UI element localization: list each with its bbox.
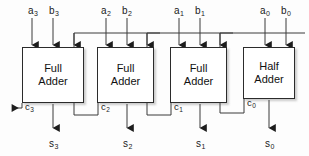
carry-label-c2: c2 xyxy=(101,101,110,112)
input-label-a3: a3 xyxy=(28,5,38,16)
input-label-b1: b1 xyxy=(195,5,205,16)
adder-label-line2: Adder xyxy=(184,75,213,88)
sum-label-s3: s3 xyxy=(49,138,58,149)
input-label-b0: b0 xyxy=(281,5,291,16)
input-label-b3: b3 xyxy=(49,5,59,16)
carry-label-c1: c1 xyxy=(174,101,183,112)
sum-label-s1: s1 xyxy=(196,138,205,149)
input-label-a1: a1 xyxy=(174,5,184,16)
carry-label-c0: c0 xyxy=(247,97,256,108)
adder-label-line1: Full xyxy=(117,62,135,75)
adder-block-fa1: Full Adder xyxy=(170,47,227,103)
adder-label-line1: Full xyxy=(44,62,62,75)
adder-label-line2: Adder xyxy=(38,75,67,88)
input-label-a0: a0 xyxy=(260,5,270,16)
input-label-b2: b2 xyxy=(122,5,132,16)
ripple-carry-adder-diagram: Full Adder Full Adder Full Adder Half Ad… xyxy=(0,0,309,156)
adder-block-fa2: Full Adder xyxy=(97,47,154,103)
sum-label-s0: s0 xyxy=(265,138,274,149)
sum-label-s2: s2 xyxy=(123,138,132,149)
adder-label-line2: Adder xyxy=(254,73,283,86)
adder-block-fa3: Full Adder xyxy=(22,47,84,103)
carry-label-c3: c3 xyxy=(25,101,34,112)
adder-block-ha0: Half Adder xyxy=(243,47,295,99)
adder-label-line2: Adder xyxy=(111,75,140,88)
input-label-a2: a2 xyxy=(101,5,111,16)
adder-label-line1: Half xyxy=(259,60,279,73)
adder-label-line1: Full xyxy=(190,62,208,75)
